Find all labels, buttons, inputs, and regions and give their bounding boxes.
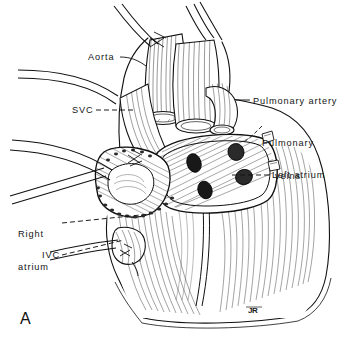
label-svc: SVC: [72, 105, 94, 116]
label-right-atrium-line2: atrium: [18, 262, 49, 273]
pulmonary-artery-vessel: [173, 32, 237, 136]
leader-aorta: [120, 57, 146, 66]
label-pulmonary-veins: Pulmonary veins: [262, 116, 314, 204]
label-right-atrium-line1: Right: [18, 229, 49, 240]
label-ivc: IVC: [42, 250, 60, 261]
cardiac-anatomy-figure: JR Aorta SVC Pulmonary artery Pulmonary …: [0, 0, 350, 346]
label-pulmonary-veins-line1: Pulmonary: [262, 138, 314, 149]
panel-letter: A: [20, 310, 31, 328]
label-left-atrium: Left atrium: [272, 170, 325, 181]
label-aorta: Aorta: [88, 52, 114, 63]
label-pulmonary-artery: Pulmonary artery: [253, 96, 337, 107]
